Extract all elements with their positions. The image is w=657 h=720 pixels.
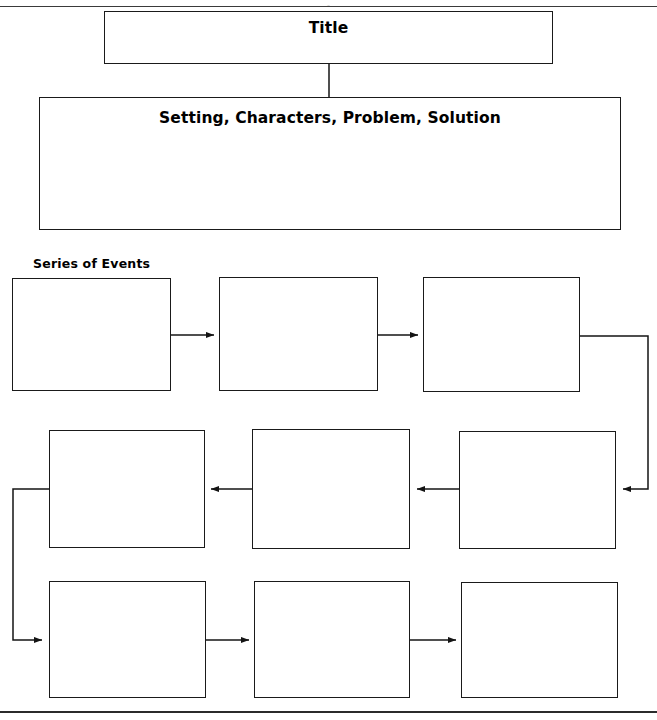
event-box-9[interactable] [461, 582, 618, 698]
connector-event4-to-event7 [13, 489, 49, 640]
title-box-label: Title [105, 20, 552, 37]
event-box-6[interactable] [459, 431, 616, 549]
event-box-1[interactable] [12, 278, 171, 391]
event-box-5[interactable] [252, 429, 410, 549]
event-box-7[interactable] [49, 581, 206, 698]
setting-characters-problem-solution-label: Setting, Characters, Problem, Solution [40, 110, 620, 127]
header-divider-rule [0, 6, 657, 7]
event-box-4[interactable] [49, 430, 205, 548]
event-box-2[interactable] [219, 277, 378, 391]
series-of-events-heading: Series of Events [33, 256, 150, 271]
footer-divider-rule [0, 711, 657, 713]
event-box-8[interactable] [254, 581, 410, 698]
event-box-3[interactable] [423, 277, 580, 392]
setting-characters-problem-solution-box[interactable]: Setting, Characters, Problem, Solution [39, 97, 621, 230]
story-map-worksheet: , [0, 0, 657, 720]
title-box[interactable]: Title [104, 11, 553, 64]
